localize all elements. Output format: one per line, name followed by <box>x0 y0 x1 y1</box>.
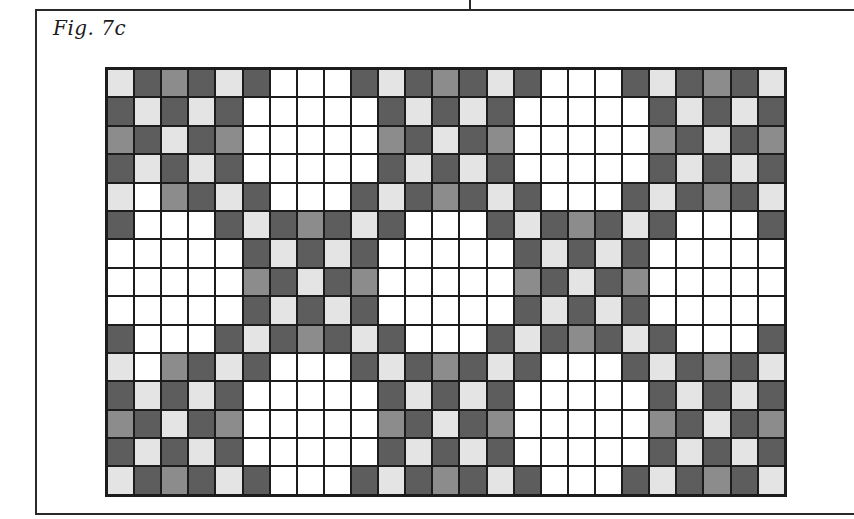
frame-top-tick <box>469 0 471 11</box>
grid-cell-dark-gray <box>188 466 215 494</box>
grid-cell-dark-gray <box>459 410 486 438</box>
grid-cell-white <box>731 268 758 296</box>
grid-cell-medium-gray <box>161 466 188 494</box>
grid-cell-white <box>351 438 378 466</box>
grid-cell-white <box>405 239 432 267</box>
grid-cell-medium-gray <box>649 410 676 438</box>
grid-cell-light-gray <box>541 239 568 267</box>
grid-cell-white <box>161 296 188 324</box>
grid-cell-dark-gray <box>405 353 432 381</box>
grid-cell-medium-gray <box>568 325 595 353</box>
grid-cell-dark-gray <box>405 183 432 211</box>
grid-cell-light-gray <box>324 239 351 267</box>
grid-cell-white <box>243 97 270 125</box>
grid-cell-white <box>568 97 595 125</box>
grid-cell-white <box>324 381 351 409</box>
grid-cell-white <box>649 239 676 267</box>
grid-cell-dark-gray <box>541 211 568 239</box>
grid-cell-white <box>459 239 486 267</box>
grid-cell-dark-gray <box>297 239 324 267</box>
grid-cell-dark-gray <box>107 97 134 125</box>
grid-cell-white <box>297 353 324 381</box>
grid-cell-white <box>297 183 324 211</box>
grid-cell-dark-gray <box>595 325 622 353</box>
grid-cell-dark-gray <box>514 183 541 211</box>
grid-cell-white <box>568 69 595 97</box>
grid-cell-dark-gray <box>215 154 242 182</box>
grid-cell-white <box>134 353 161 381</box>
grid-cell-dark-gray <box>107 325 134 353</box>
grid-cell-white <box>622 381 649 409</box>
grid-cell-dark-gray <box>243 296 270 324</box>
grid-cell-medium-gray <box>703 69 730 97</box>
grid-cell-medium-gray <box>161 183 188 211</box>
grid-cell-dark-gray <box>243 69 270 97</box>
grid-cell-dark-gray <box>351 353 378 381</box>
grid-cell-white <box>188 268 215 296</box>
grid-cell-dark-gray <box>622 353 649 381</box>
grid-cell-white <box>215 296 242 324</box>
grid-cell-light-gray <box>243 325 270 353</box>
grid-cell-white <box>324 154 351 182</box>
grid-cell-light-gray <box>731 438 758 466</box>
grid-cell-light-gray <box>487 69 514 97</box>
grid-cell-dark-gray <box>568 239 595 267</box>
grid-cell-white <box>514 97 541 125</box>
grid-cell-dark-gray <box>243 466 270 494</box>
grid-cell-white <box>134 268 161 296</box>
grid-cell-dark-gray <box>297 296 324 324</box>
grid-cell-dark-gray <box>703 97 730 125</box>
grid-cell-white <box>731 239 758 267</box>
grid-cell-white <box>134 325 161 353</box>
grid-cell-white <box>676 268 703 296</box>
grid-cell-white <box>541 353 568 381</box>
grid-cell-medium-gray <box>487 126 514 154</box>
grid-cell-dark-gray <box>595 268 622 296</box>
grid-cell-white <box>405 325 432 353</box>
grid-cell-dark-gray <box>731 69 758 97</box>
grid-cell-light-gray <box>378 183 405 211</box>
grid-cell-dark-gray <box>758 381 785 409</box>
grid-cell-dark-gray <box>351 296 378 324</box>
grid-cell-medium-gray <box>568 211 595 239</box>
grid-cell-white <box>514 381 541 409</box>
grid-cell-white <box>405 296 432 324</box>
grid-cell-medium-gray <box>703 353 730 381</box>
grid-cell-light-gray <box>134 154 161 182</box>
grid-cell-light-gray <box>459 97 486 125</box>
grid-cell-dark-gray <box>541 325 568 353</box>
grid-cell-light-gray <box>432 126 459 154</box>
grid-cell-light-gray <box>459 438 486 466</box>
grid-cell-light-gray <box>758 183 785 211</box>
grid-cell-white <box>676 296 703 324</box>
grid-cell-white <box>514 154 541 182</box>
grid-cell-light-gray <box>405 381 432 409</box>
grid-cell-dark-gray <box>731 466 758 494</box>
grid-cell-white <box>595 97 622 125</box>
grid-cell-dark-gray <box>703 154 730 182</box>
grid-cell-white <box>351 154 378 182</box>
grid-cell-white <box>270 97 297 125</box>
grid-cell-dark-gray <box>188 183 215 211</box>
grid-cell-dark-gray <box>758 154 785 182</box>
grid-cell-light-gray <box>107 183 134 211</box>
grid-cell-dark-gray <box>459 466 486 494</box>
grid-cell-white <box>270 410 297 438</box>
grid-cell-white <box>541 410 568 438</box>
grid-cell-white <box>568 410 595 438</box>
grid-cell-white <box>270 183 297 211</box>
grid-cell-light-gray <box>215 466 242 494</box>
grid-cell-white <box>703 239 730 267</box>
grid-cell-white <box>324 466 351 494</box>
grid-cell-white <box>378 268 405 296</box>
grid-cell-light-gray <box>676 154 703 182</box>
grid-cell-dark-gray <box>134 126 161 154</box>
grid-cell-white <box>161 211 188 239</box>
grid-cell-dark-gray <box>324 211 351 239</box>
grid-cell-light-gray <box>622 325 649 353</box>
grid-cell-light-gray <box>487 353 514 381</box>
grid-cell-white <box>731 325 758 353</box>
grid-cell-dark-gray <box>215 97 242 125</box>
grid-cell-dark-gray <box>459 69 486 97</box>
grid-cell-dark-gray <box>324 268 351 296</box>
